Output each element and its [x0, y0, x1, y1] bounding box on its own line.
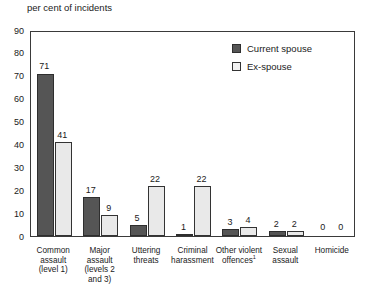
bar-value-label: 22: [143, 175, 167, 184]
bar: [37, 74, 54, 237]
x-axis-label-line: (levels 2: [69, 265, 131, 275]
x-axis-label-line: and 3): [69, 275, 131, 285]
y-axis-title: per cent of incidents: [27, 2, 112, 14]
bar: [130, 225, 147, 236]
bar-value-label: 1: [172, 223, 196, 232]
bar: [222, 229, 239, 236]
legend-label: Ex-spouse: [247, 62, 292, 72]
bar-value-label: 4: [236, 216, 260, 225]
chart-legend: Current spouseEx-spouse: [232, 41, 312, 77]
bar: [176, 234, 193, 237]
legend-item: Ex-spouse: [232, 59, 312, 74]
bar: [148, 186, 165, 236]
legend-label: Current spouse: [247, 44, 312, 54]
bar: [55, 142, 72, 236]
y-axis-tick-label: 70: [0, 72, 24, 81]
y-axis-tick-label: 80: [0, 49, 24, 58]
x-axis-label-line: Homicide: [301, 246, 363, 256]
bar: [101, 215, 118, 236]
y-axis-tick-label: 60: [0, 95, 24, 104]
legend-swatch-current: [232, 44, 241, 53]
bar: [287, 231, 304, 236]
y-axis-tick-label: 90: [0, 27, 24, 36]
bar: [83, 197, 100, 236]
bar-value-label: 9: [97, 204, 121, 213]
bar-value-label: 22: [190, 175, 214, 184]
legend-item: Current spouse: [232, 41, 312, 56]
bar-value-label: 17: [79, 186, 103, 195]
x-axis-label: Homicide: [301, 246, 363, 256]
y-axis-tick-label: 10: [0, 210, 24, 219]
bar-value-label: 71: [32, 62, 56, 71]
y-axis-tick-label: 40: [0, 141, 24, 150]
y-axis-tick-label: 0: [0, 233, 24, 242]
y-axis-tick-label: 30: [0, 164, 24, 173]
y-axis-tick-label: 50: [0, 118, 24, 127]
bar-chart: per cent of incidents 010203040506070809…: [0, 0, 367, 299]
bar: [194, 186, 211, 236]
x-axis-label-line: assault: [254, 256, 316, 266]
bar: [269, 231, 286, 236]
bar-value-label: 5: [125, 214, 149, 223]
legend-swatch-ex: [232, 62, 241, 71]
bar-value-label: 0: [329, 223, 353, 232]
bar-value-label: 2: [282, 220, 306, 229]
bar: [240, 227, 257, 236]
bar-value-label: 41: [50, 131, 74, 140]
y-axis-tick-label: 20: [0, 187, 24, 196]
